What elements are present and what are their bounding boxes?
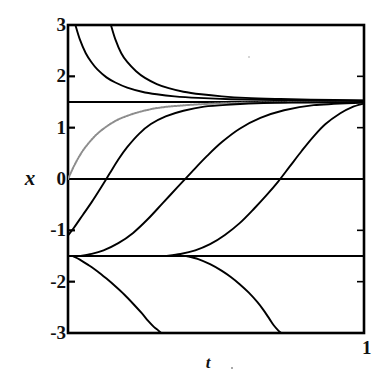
y-tick-label-neg3: -3 (20, 323, 66, 342)
y-tick-label-2: 2 (20, 66, 66, 85)
y-axis-label: x (16, 168, 44, 189)
y-axis-tick-labels: 3210-1-2-3 (12, 0, 66, 388)
print-speck (231, 367, 233, 369)
print-speck (248, 56, 250, 58)
x-axis-tick-label-1: 1 (362, 338, 372, 357)
y-tick-label-1: 1 (20, 118, 66, 137)
y-tick-label-neg1: -1 (20, 220, 66, 239)
y-tick-label-neg2: -2 (20, 272, 66, 291)
x-axis-label: t (196, 354, 220, 371)
y-tick-label-3: 3 (20, 15, 66, 34)
